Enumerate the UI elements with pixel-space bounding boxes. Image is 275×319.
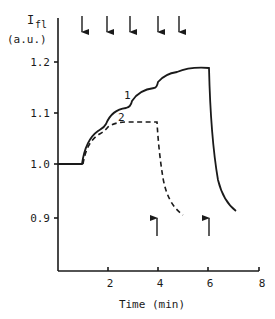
y-axis-units: (a.u.) bbox=[7, 33, 47, 46]
series-1-label: 1 bbox=[124, 89, 131, 102]
x-tick-label: 2 bbox=[107, 277, 114, 290]
x-tick-label: 8 bbox=[259, 277, 266, 290]
y-tick-label: 1.2 bbox=[30, 56, 50, 69]
x-axis-label: Time (min) bbox=[119, 298, 185, 311]
series-1-line bbox=[58, 68, 236, 211]
fluorescence-chart: I fl (a.u.) 1.2 1.1 1.0 0.9 2 4 6 8 Time… bbox=[0, 0, 275, 319]
y-tick-label: 1.1 bbox=[30, 107, 50, 120]
series-2-line bbox=[83, 122, 183, 215]
removal-arrows bbox=[157, 218, 209, 236]
x-tick-label: 6 bbox=[207, 277, 214, 290]
series-2-label: 2 bbox=[118, 111, 125, 124]
y-tick-label: 0.9 bbox=[30, 212, 50, 225]
y-axis-label-main: I bbox=[27, 13, 34, 27]
addition-arrows bbox=[82, 16, 179, 32]
y-tick-label: 1.0 bbox=[30, 158, 50, 171]
x-tick-label: 4 bbox=[157, 277, 164, 290]
y-axis-label-sub: fl bbox=[35, 19, 47, 30]
